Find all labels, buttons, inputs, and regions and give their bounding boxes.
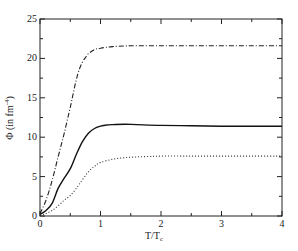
y-tick-label: 20	[27, 52, 37, 63]
x-tick-label: 2	[159, 218, 164, 229]
x-tick-label: 4	[280, 218, 285, 229]
y-tick-label: 15	[27, 92, 37, 103]
y-tick-label: 5	[32, 171, 37, 182]
y-tick-label: 25	[27, 13, 37, 24]
plot-frame	[40, 19, 282, 216]
y-tick-label: 0	[32, 210, 37, 221]
y-axis-label: Φ (in fm-4)	[3, 96, 16, 140]
line-chart: 012340510152025 T/Tc Φ (in fm-4)	[0, 0, 298, 251]
x-tick-label: 0	[38, 218, 43, 229]
x-axis-label: T/Tc	[145, 230, 163, 243]
dotted-series-line	[40, 156, 282, 215]
x-tick-label: 3	[219, 218, 224, 229]
solid-series-line	[40, 124, 282, 214]
data-series	[40, 46, 282, 215]
x-tick-label: 1	[98, 218, 103, 229]
axis-ticks	[40, 19, 282, 216]
y-tick-label: 10	[27, 131, 37, 142]
